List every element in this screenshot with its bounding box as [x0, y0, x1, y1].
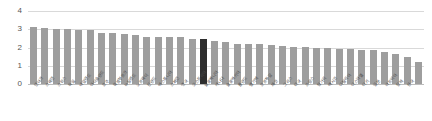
bar [415, 62, 422, 84]
bar [30, 27, 37, 84]
bar [53, 29, 60, 84]
x-tick-label: 독일 [68, 79, 76, 88]
bar [189, 39, 196, 84]
y-tick-label-1: 1 [0, 62, 22, 70]
x-axis-category-labels: 덴마크스웨덴스위스독일네덜란드아이슬란드호주룩셈부르크뉴질랜드노르웨이핀란드에스… [28, 85, 424, 121]
y-axis-tick-labels: 01234 [0, 11, 22, 84]
bar [279, 46, 286, 84]
bar-chart: 01234 덴마크스웨덴스위스독일네덜란드아이슬란드호주룩셈부르크뉴질랜드노르웨… [0, 0, 432, 121]
x-tick-label: 호주 [102, 79, 110, 88]
y-tick-label-0: 0 [0, 80, 22, 88]
bar [75, 30, 82, 84]
y-tick-label-4: 4 [0, 7, 22, 15]
bar [109, 33, 116, 84]
y-tick-label-2: 2 [0, 44, 22, 52]
y-tick-label-3: 3 [0, 25, 22, 33]
